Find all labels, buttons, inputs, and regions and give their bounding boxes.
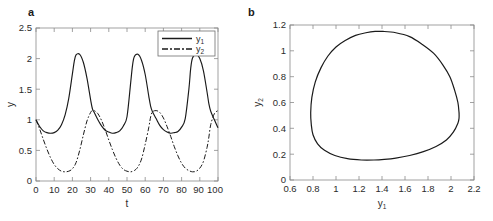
panel-b-xtick-5: 1.6 (398, 183, 411, 194)
panel-a-xtick-7: 70 (158, 184, 169, 195)
panel-a-ytick-2: 1 (27, 114, 32, 125)
panel-b-plot: 0 0.2 0.4 0.6 0.8 1 1.2 0.6 0.8 1 1.2 1.… (246, 0, 493, 221)
panel-a-xtick-1: 10 (49, 184, 60, 195)
panel-a-legend[interactable]: y1 y2 (158, 31, 215, 56)
panel-b-xtick-4: 1.4 (375, 183, 388, 194)
panel-a-plot: 0 0.5 1 1.5 2 2.5 0 10 20 30 40 50 60 70 (0, 0, 246, 221)
panel-a-ytick-4: 2 (27, 53, 32, 64)
panel-b-ytick-1: 0.2 (273, 149, 286, 160)
panel-a-xtick-2: 20 (67, 184, 78, 195)
panel-b-xtick-3: 1.2 (352, 183, 365, 194)
panel-b-ytick-6: 1.2 (273, 19, 286, 30)
panel-b-y-tick-labels: 0 0.2 0.4 0.6 0.8 1 1.2 (273, 19, 286, 185)
figure-container: a (0, 0, 493, 221)
panel-b-xtick-0: 0.6 (283, 183, 296, 194)
panel-b-ytick-4: 0.8 (273, 71, 286, 82)
panel-a: a (0, 0, 246, 221)
panel-a-x-tick-labels: 0 10 20 30 40 50 60 70 80 90 100 (33, 184, 223, 195)
panel-b-ytick-5: 1 (281, 45, 286, 56)
panel-b-xlabel: y1 (378, 198, 387, 210)
panel-a-ytick-3: 1.5 (19, 84, 32, 95)
panel-b-xtick-8: 2.2 (467, 183, 480, 194)
panel-b-xtick-1: 0.8 (306, 183, 319, 194)
panel-a-xtick-6: 60 (140, 184, 151, 195)
panel-a-ylabel: y (5, 102, 16, 107)
panel-a-xtick-0: 0 (33, 184, 38, 195)
panel-a-xtick-3: 30 (85, 184, 96, 195)
panel-b-axes-frame (290, 25, 474, 180)
panel-a-xtick-8: 80 (176, 184, 187, 195)
panel-a-y-tick-labels: 0 0.5 1 1.5 2 2.5 (19, 22, 32, 186)
panel-a-ytick-5: 2.5 (19, 22, 32, 33)
panel-b-x-tick-labels: 0.6 0.8 1 1.2 1.4 1.6 1.8 2 2.2 (283, 183, 480, 194)
legend-box (158, 31, 215, 56)
panel-b-ylabel: y2 (252, 98, 264, 107)
panel-a-xtick-5: 50 (122, 184, 133, 195)
panel-b: b (246, 0, 493, 221)
panel-a-ytick-0: 0 (27, 175, 32, 186)
panel-a-svg: 0 0.5 1 1.5 2 2.5 0 10 20 30 40 50 60 70 (0, 0, 246, 221)
panel-a-xtick-10: 100 (207, 184, 223, 195)
panel-b-ytick-2: 0.4 (273, 123, 286, 134)
panel-b-svg: 0 0.2 0.4 0.6 0.8 1 1.2 0.6 0.8 1 1.2 1.… (246, 0, 493, 221)
panel-a-xtick-4: 40 (104, 184, 115, 195)
panel-a-xlabel: t (126, 198, 129, 209)
panel-b-ytick-3: 0.6 (273, 97, 286, 108)
panel-b-xtick-6: 1.8 (421, 183, 434, 194)
panel-b-xtick-2: 1 (333, 183, 338, 194)
panel-a-xtick-9: 90 (193, 184, 204, 195)
panel-b-xtick-7: 2 (448, 183, 453, 194)
panel-a-ytick-1: 0.5 (19, 145, 32, 156)
